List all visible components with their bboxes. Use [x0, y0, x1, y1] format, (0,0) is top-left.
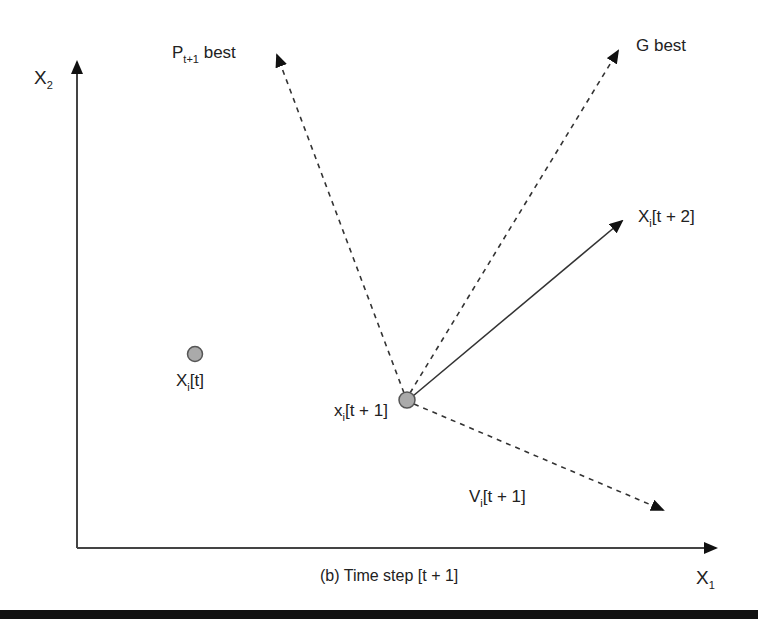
bottom-divider-bar [0, 610, 758, 619]
xi-t-label: Xi[t] [176, 372, 204, 389]
v-t1-vector [414, 404, 663, 510]
xi-t1-label: xi[t + 1] [334, 402, 388, 419]
v-t1-label: Vi[t + 1] [469, 488, 526, 505]
axes [77, 62, 716, 548]
x-t2-vector [413, 221, 622, 396]
caption: (b) Time step [t + 1] [320, 568, 458, 584]
y-axis-label: X2 [34, 68, 53, 87]
point-xi-t1 [399, 392, 415, 408]
point-xi-t [188, 347, 203, 362]
p-best-label: Pt+1 best [172, 44, 236, 61]
x-axis-label: X1 [696, 568, 715, 587]
p-best-vector [277, 55, 404, 393]
pso-diagram [0, 0, 758, 626]
g-best-vector [410, 51, 618, 393]
g-best-label: G best [636, 37, 686, 54]
x-t2-label: Xi[t + 2] [638, 208, 695, 225]
